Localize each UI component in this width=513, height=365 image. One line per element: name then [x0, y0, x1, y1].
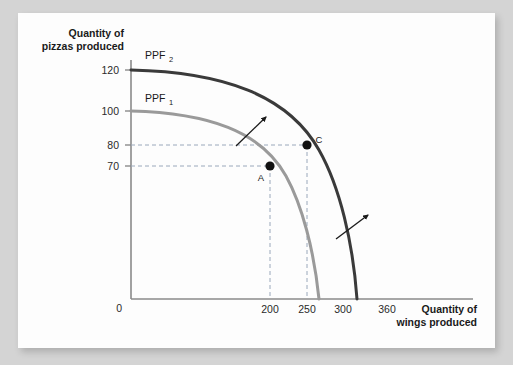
figure-card: Quantity of pizzas produced Quantity of … — [18, 13, 495, 348]
shift-arrow-lower-icon — [336, 215, 368, 239]
y-axis-title-line1: Quantity of — [69, 27, 125, 39]
y-axis-title-line2: pizzas produced — [42, 40, 124, 52]
x-tick-label-200: 200 — [261, 303, 279, 315]
ppf2-curve — [131, 70, 357, 299]
x-tick-label-250: 250 — [298, 303, 316, 315]
x-axis-title-line1: Quantity of — [422, 303, 478, 315]
ppf1-curve — [131, 111, 319, 299]
y-tick-label-100: 100 — [101, 105, 119, 117]
x-tick-label-360: 360 — [378, 303, 396, 315]
ppf1-label: PPF — [145, 92, 165, 104]
ppf2-label: PPF — [145, 49, 165, 61]
y-tick-label-120: 120 — [101, 64, 119, 76]
y-tick-label-80: 80 — [107, 139, 119, 151]
y-tick-label-70: 70 — [107, 160, 119, 172]
ppf1-label-subscript: 1 — [169, 98, 173, 107]
ppf-chart: Quantity of pizzas produced Quantity of … — [18, 13, 495, 348]
x-tick-label-300: 300 — [334, 303, 352, 315]
point-a-label: A — [258, 172, 265, 183]
ppf2-label-subscript: 2 — [169, 55, 173, 64]
origin-label: 0 — [116, 302, 122, 314]
x-axis-title-line2: wings produced — [395, 316, 477, 328]
point-a-marker — [265, 161, 274, 170]
point-c-marker — [302, 140, 311, 149]
point-c-label: C — [316, 134, 323, 145]
